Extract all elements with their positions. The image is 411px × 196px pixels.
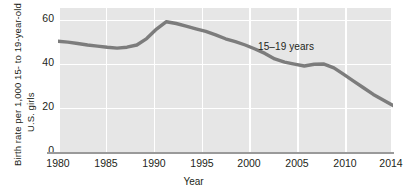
x-tick-2005: 2005: [285, 157, 308, 169]
x-tick-1985: 1985: [94, 157, 117, 169]
x-tick-2010: 2010: [333, 157, 356, 169]
y-axis-title: Birth rate per 1,000 15- to 19-year-old …: [0, 0, 36, 170]
y-tick-20: 20: [36, 100, 54, 112]
x-axis-title-text: Year: [183, 176, 203, 187]
x-tick-2000: 2000: [237, 157, 260, 169]
chart-figure: Birth rate per 1,000 15- to 19-year-old …: [0, 0, 411, 196]
x-tick-2014: 2014: [379, 157, 402, 169]
x-axis-line: [47, 152, 394, 154]
x-tick-1990: 1990: [142, 157, 165, 169]
y-axis-title-line-1: Birth rate per 1,000 15- to 19-year-old: [12, 3, 23, 166]
y-tick-0: 0: [36, 144, 54, 156]
x-tick-1995: 1995: [190, 157, 213, 169]
series-line-15-19-years: [58, 22, 393, 106]
series-line-svg: [58, 8, 393, 152]
x-axis-tick-labels: 1980 1985 1990 1995 2000 2005 2010 2014: [0, 157, 411, 173]
plot-area: [58, 8, 393, 152]
y-axis-title-line-2: U.S. girls: [25, 92, 36, 132]
series-annotation-label: 15–19 years: [258, 41, 314, 52]
y-tick-60: 60: [36, 12, 54, 24]
y-axis-tick-labels: 60 40 20 0: [36, 0, 54, 160]
x-axis-title: Year: [0, 176, 411, 187]
x-tick-1980: 1980: [46, 157, 69, 169]
y-tick-40: 40: [36, 56, 54, 68]
